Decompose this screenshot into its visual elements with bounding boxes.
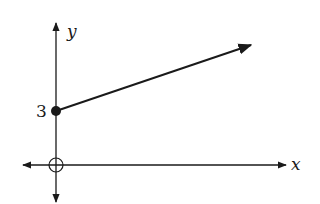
- y-intercept-label: 3: [36, 101, 47, 121]
- coordinate-graph: y x 3: [0, 0, 320, 204]
- y-intercept-dot: [51, 106, 61, 116]
- ray: [56, 45, 251, 111]
- x-axis-label: x: [291, 154, 301, 174]
- y-axis-label: y: [66, 21, 77, 41]
